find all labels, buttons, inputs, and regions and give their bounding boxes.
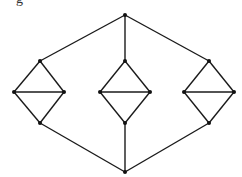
node-top <box>123 13 127 17</box>
node-R_bottom <box>207 121 211 125</box>
edge-R_top-R_right <box>209 61 234 92</box>
edge-bottom-L_bottom <box>40 123 125 172</box>
node-L_right <box>62 90 66 94</box>
node-M_left <box>98 90 102 94</box>
node-M_right <box>148 90 152 94</box>
edge-bottom-R_bottom <box>125 123 209 172</box>
edge-M_top-M_left <box>100 61 125 92</box>
edge-M_right-M_bottom <box>125 92 150 123</box>
edge-M_left-M_bottom <box>100 92 125 123</box>
edge-L_right-L_bottom <box>40 92 64 123</box>
node-L_top <box>38 59 42 63</box>
node-bottom <box>123 170 127 174</box>
edge-top-L_top <box>40 15 125 61</box>
node-L_left <box>12 90 16 94</box>
node-R_top <box>207 59 211 63</box>
node-R_right <box>232 90 236 94</box>
node-M_bottom <box>123 121 127 125</box>
edge-top-R_top <box>125 15 209 61</box>
edge-R_top-R_left <box>184 61 209 92</box>
edge-R_right-R_bottom <box>209 92 234 123</box>
node-R_left <box>182 90 186 94</box>
edge-L_top-L_right <box>40 61 64 92</box>
edge-M_top-M_right <box>125 61 150 92</box>
node-L_bottom <box>38 121 42 125</box>
edge-L_left-L_bottom <box>14 92 40 123</box>
node-M_top <box>123 59 127 63</box>
edge-L_top-L_left <box>14 61 40 92</box>
edge-R_left-R_bottom <box>184 92 209 123</box>
graph-diagram <box>0 0 242 177</box>
